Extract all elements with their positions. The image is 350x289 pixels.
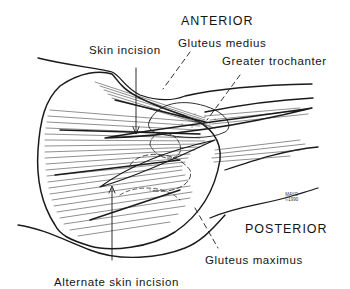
skin-incision-label: Skin incision [89, 45, 161, 57]
gluteus-medius-leader [163, 52, 190, 89]
lower-contour [18, 215, 225, 257]
gluteal-region-outline [38, 72, 221, 248]
gluteus-medius-label: Gluteus medius [178, 38, 266, 50]
alternate-skin-incision-label: Alternate skin incision [54, 277, 179, 289]
anatomical-illustration [0, 0, 350, 289]
signature-line-2: ©1990 [285, 198, 298, 203]
anterior-label: ANTERIOR [181, 15, 254, 28]
posterior-label: POSTERIOR [245, 223, 328, 236]
artist-signature: MAYO ©1990 [285, 193, 298, 203]
gluteus-maximus-leader [195, 208, 218, 248]
gluteus-maximus-label: Gluteus maximus [205, 255, 303, 267]
posterior-contour [210, 188, 318, 218]
greater-trochanter-label: Greater trochanter [222, 56, 327, 68]
thigh-contour-lower [225, 147, 318, 170]
